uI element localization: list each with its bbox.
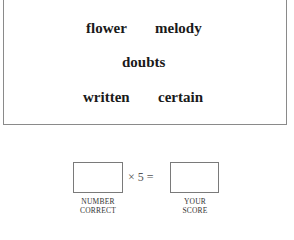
word-flower: flower [86, 20, 127, 37]
number-correct-input-box[interactable] [73, 162, 123, 193]
number-label-line1: NUMBER [68, 197, 128, 206]
number-correct-label: NUMBER CORRECT [68, 197, 128, 215]
times-symbol: × 5 = [128, 170, 154, 185]
your-score-label: YOUR SCORE [165, 197, 225, 215]
word-doubts: doubts [122, 54, 165, 71]
score-label-line2: SCORE [165, 206, 225, 215]
correct-label-line2: CORRECT [68, 206, 128, 215]
word-certain: certain [158, 89, 203, 106]
word-written: written [83, 89, 130, 106]
word-melody: melody [155, 20, 202, 37]
your-label-line1: YOUR [165, 197, 225, 206]
your-score-input-box[interactable] [170, 162, 219, 193]
